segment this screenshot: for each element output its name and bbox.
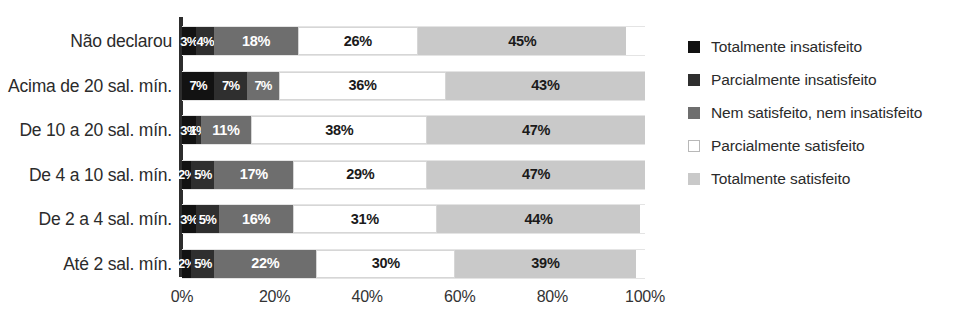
bar-segment: 22% [214,250,316,278]
legend-label: Totalmente insatisfeito [711,38,862,56]
legend-swatch-icon [688,107,700,119]
gridline [182,233,645,234]
bar-segment: 7% [214,72,246,100]
axis-tick-label: 0% [171,288,194,306]
axis-tick-label: 100% [625,288,665,306]
category-label: De 4 a 10 sal. mín. [0,161,172,189]
bar-segment: 30% [316,250,455,278]
bar-segment: 5% [196,205,219,233]
axis-tick-label: 80% [537,288,568,306]
bar-row: 2%5%22%30%39% [182,250,645,278]
bar-segment: 17% [214,161,293,189]
bar-segment-value: 31% [351,212,379,227]
bar-segment: 16% [219,205,293,233]
bar-segment: 11% [201,116,252,144]
legend-label: Nem satisfeito, nem insatisfeito [711,104,922,122]
bar-segment-value: 17% [240,167,268,182]
legend-item[interactable]: Parcialmente insatisfeito [688,63,968,96]
category-label: Acima de 20 sal. mín. [0,72,172,100]
legend-swatch-icon [688,41,700,53]
bar-segment: 47% [427,161,645,189]
bar-segment: 36% [279,72,446,100]
bar-segment: 26% [298,27,418,55]
stacked-bar-chart: Não declarouAcima de 20 sal. mín.De 10 a… [0,0,974,324]
bar-row: 3%4%18%26%45% [182,27,645,55]
bar-segment: 3% [182,27,196,55]
bar-segment-value: 26% [344,34,372,49]
axis-tick-label: 60% [444,288,475,306]
bar-row: 2%5%17%29%47% [182,161,645,189]
category-label: De 2 a 4 sal. mín. [0,205,172,233]
bar-segment-value: 7% [222,79,239,92]
gridline [182,144,645,145]
bar-row: 7%7%7%36%43% [182,72,645,100]
bar-segment-value: 7% [190,79,207,92]
bar-segment-value: 5% [194,168,211,181]
legend-item[interactable]: Totalmente insatisfeito [688,30,968,63]
axis-tick-label: 40% [351,288,382,306]
bar-segment-value: 5% [199,213,216,226]
legend-item[interactable]: Totalmente satisfeito [688,162,968,195]
bar-row: 3%1%11%38%47% [182,116,645,144]
axis-tick-label: 20% [259,288,290,306]
bar-segment-value: 43% [531,78,559,93]
bar-segment: 38% [251,116,427,144]
bar-segment: 39% [455,250,636,278]
legend-item[interactable]: Nem satisfeito, nem insatisfeito [688,96,968,129]
bar-segment: 4% [196,27,215,55]
bar-segment: 45% [418,27,626,55]
bar-segment-value: 18% [242,34,270,49]
bar-segment: 43% [446,72,645,100]
bar-segment-value: 5% [194,257,211,270]
bar-row: 3%5%16%31%44% [182,205,645,233]
category-label: Até 2 sal. mín. [0,250,172,278]
bar-segment: 7% [247,72,279,100]
bar-segment-value: 38% [325,123,353,138]
legend-swatch-icon [688,140,700,152]
bar-segment-value: 7% [254,79,271,92]
legend-label: Parcialmente satisfeito [711,137,865,155]
legend-swatch-icon [688,173,700,185]
value-axis-line [179,17,183,277]
bar-segment: 2% [182,250,191,278]
bar-segment-value: 47% [522,123,550,138]
legend-label: Parcialmente insatisfeito [711,71,877,89]
legend-item[interactable]: Parcialmente satisfeito [688,129,968,162]
chart-legend: Totalmente insatisfeitoParcialmente insa… [688,30,968,195]
bar-segment-value: 16% [242,212,270,227]
bar-segment: 2% [182,161,191,189]
bar-segment: 18% [214,27,297,55]
bar-segment: 29% [293,161,427,189]
bar-segment: 44% [437,205,641,233]
bar-segment-value: 11% [212,123,239,138]
bar-segment-value: 29% [346,167,374,182]
bar-segment: 5% [191,250,214,278]
bar-segment: 31% [293,205,437,233]
gridline [182,278,645,279]
category-axis: Não declarouAcima de 20 sal. mín.De 10 a… [0,0,172,324]
category-label: De 10 a 20 sal. mín. [0,116,172,144]
gridline [182,100,645,101]
gridline [182,55,645,56]
bar-segment-value: 45% [508,34,536,49]
bar-segment-value: 22% [251,256,279,271]
bar-segment-value: 47% [522,167,550,182]
bar-segment: 5% [191,161,214,189]
category-label: Não declarou [0,27,172,55]
bar-segment-value: 4% [197,35,214,48]
bar-segment-value: 39% [531,256,559,271]
bar-segment: 3% [182,205,196,233]
legend-swatch-icon [688,74,700,86]
legend-label: Totalmente satisfeito [711,170,850,188]
bar-segment-value: 36% [348,78,376,93]
bar-segment: 47% [427,116,645,144]
bar-segment-value: 30% [372,256,400,271]
plot-area: 3%4%18%26%45%7%7%7%36%43%3%1%11%38%47%2%… [182,0,645,324]
bar-segment: 7% [182,72,214,100]
gridline [182,189,645,190]
bar-segment-value: 44% [524,212,552,227]
